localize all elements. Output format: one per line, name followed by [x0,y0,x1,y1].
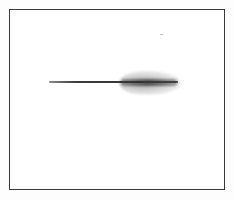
image-description: Scanned monochrome figure: a thin horizo… [0,199,1,200]
image-frame-border [9,9,225,190]
horizontal-streak [49,81,178,83]
figure-canvas: Scanned monochrome figure: a thin horizo… [0,0,234,200]
dust-speck [160,34,163,35]
